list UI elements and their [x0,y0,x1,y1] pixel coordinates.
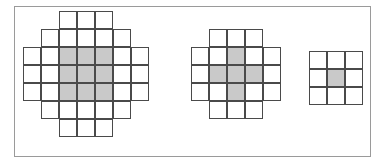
grid-cell-empty [23,65,41,83]
grid-cell-empty [113,83,131,101]
grid-cell-empty [95,29,113,47]
grid-cell-empty [209,29,227,47]
grid-cell-filled [77,83,95,101]
grid-cell-empty [113,65,131,83]
grid-cell-empty [113,101,131,119]
grid-cell-empty [309,51,327,69]
grid-cell-empty [245,47,263,65]
grid-cell-filled [77,65,95,83]
grid-cell-empty [95,101,113,119]
grid-cell-empty [59,11,77,29]
grid-cell-filled [59,83,77,101]
grid-cell-empty [191,47,209,65]
grid-cell-filled [95,65,113,83]
grid-cell-empty [113,29,131,47]
grid-cell-filled [95,83,113,101]
grid-cell-empty [209,47,227,65]
grid-cell-empty [263,47,281,65]
grid-cell-empty [263,83,281,101]
grid-cell-filled [59,65,77,83]
grid-cell-filled [77,47,95,65]
grid-cell-empty [345,69,363,87]
grid-cell-filled [327,69,345,87]
grid-cell-empty [77,11,95,29]
grid-cell-empty [245,101,263,119]
grid-cell-filled [227,47,245,65]
grid-cell-empty [263,65,281,83]
grid-cell-empty [227,101,245,119]
grid-cell-empty [41,29,59,47]
grid-cell-empty [191,65,209,83]
grid-cell-empty [309,87,327,105]
grid-cell-filled [227,83,245,101]
grid-cell-empty [245,83,263,101]
grid-cell-empty [41,65,59,83]
grid-cell-filled [209,65,227,83]
grid-cell-filled [227,65,245,83]
grid-cell-empty [327,51,345,69]
grid-cell-empty [131,47,149,65]
figure-border-frame [14,6,371,157]
grid-cell-empty [41,83,59,101]
grid-cell-empty [59,29,77,47]
grid-cell-empty [95,119,113,137]
grid-cell-empty [23,83,41,101]
grid-cell-empty [327,87,345,105]
grid-cell-empty [77,119,95,137]
grid-cell-empty [113,47,131,65]
grid-cell-empty [191,83,209,101]
grid-cell-empty [209,101,227,119]
grid-cell-empty [77,101,95,119]
figure-root [0,0,384,165]
grid-cell-empty [59,101,77,119]
grid-cell-empty [131,83,149,101]
grid-cell-empty [41,47,59,65]
grid-cell-filled [59,47,77,65]
grid-cell-empty [77,29,95,47]
grid-cell-empty [131,65,149,83]
grid-cell-empty [345,51,363,69]
grid-cell-empty [41,101,59,119]
grid-cell-empty [245,29,263,47]
grid-cell-empty [345,87,363,105]
grid-cell-filled [245,65,263,83]
grid-cell-empty [59,119,77,137]
grid-cell-filled [95,47,113,65]
grid-cell-empty [309,69,327,87]
grid-cell-empty [23,47,41,65]
grid-cell-empty [227,29,245,47]
grid-cell-empty [95,11,113,29]
grid-cell-empty [209,83,227,101]
